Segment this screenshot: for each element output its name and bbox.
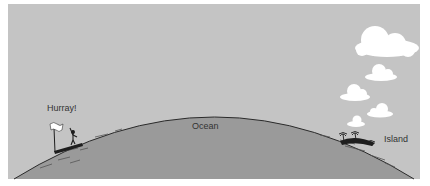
ocean-label: Ocean	[192, 121, 219, 131]
hurray-label: Hurray!	[47, 103, 77, 113]
island-label: Island	[384, 134, 408, 144]
ocean-curvature-diagram	[0, 0, 430, 186]
